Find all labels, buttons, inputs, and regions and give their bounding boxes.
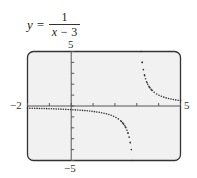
curve-point: [46, 108, 48, 110]
curve-point: [101, 112, 103, 114]
curve-point: [177, 99, 179, 101]
curve-point: [27, 107, 29, 109]
curve-point: [115, 117, 117, 119]
curve-point: [153, 92, 155, 94]
curve-point: [31, 107, 33, 109]
curve-point: [118, 118, 120, 120]
curve-point: [121, 121, 123, 123]
curve-point: [140, 51, 142, 53]
curve-point: [161, 96, 163, 98]
curve-point: [51, 108, 53, 110]
curve-point: [173, 99, 175, 101]
curve-point: [150, 88, 152, 90]
curve-point: [96, 111, 98, 113]
curve-point: [55, 108, 57, 110]
curve-point: [129, 142, 131, 144]
curve-point: [106, 113, 108, 115]
curve-point: [123, 123, 125, 125]
curve-point: [125, 127, 127, 129]
curve-point: [156, 93, 158, 95]
curve-point: [89, 110, 91, 112]
curve-point: [158, 94, 160, 96]
curve-point: [39, 108, 41, 110]
curve-point: [147, 83, 149, 85]
curve-point: [122, 122, 124, 124]
curve-point: [175, 99, 177, 101]
curve-point: [165, 97, 167, 99]
curve-point: [94, 111, 96, 113]
curve-point: [168, 98, 170, 100]
curve-point: [65, 109, 67, 111]
curve-point: [124, 125, 126, 127]
curve-point: [108, 114, 110, 116]
curve-point: [48, 108, 50, 110]
curve-point: [143, 69, 145, 71]
curve-point: [43, 108, 45, 110]
curve-point: [72, 109, 74, 111]
curve-point: [180, 100, 182, 102]
curve-point: [126, 129, 128, 131]
curve-point: [103, 112, 105, 114]
curve-point: [113, 115, 115, 117]
curve-point: [29, 107, 31, 109]
curve-point: [149, 87, 151, 89]
curve-point: [144, 74, 146, 76]
curve-point: [67, 109, 69, 111]
curve-point: [41, 108, 43, 110]
curve-point: [110, 115, 112, 117]
curve-point: [86, 110, 88, 112]
curve-point: [36, 108, 38, 110]
curve-point: [84, 110, 86, 112]
curve-point: [60, 108, 62, 110]
curve-point: [91, 111, 93, 113]
curve-point: [146, 81, 148, 83]
graphing-calculator-screen: [0, 0, 197, 178]
curve-point: [79, 109, 81, 111]
curve-point: [151, 90, 153, 92]
curve-point: [141, 62, 143, 64]
curve-point: [63, 108, 65, 110]
curve-point: [75, 109, 77, 111]
curve-point: [53, 108, 55, 110]
curve-point: [77, 109, 79, 111]
curve-point: [34, 108, 36, 110]
curve-point: [127, 132, 129, 134]
curve-point: [82, 110, 84, 112]
curve-point: [131, 149, 133, 151]
curve-point: [98, 112, 100, 114]
curve-point: [163, 96, 165, 98]
curve-point: [170, 98, 172, 100]
curve-point: [70, 109, 72, 111]
curve-point: [132, 160, 134, 162]
curve-point: [58, 108, 60, 110]
curve-point: [128, 136, 130, 138]
curve-point: [145, 78, 147, 80]
curve-point: [148, 85, 150, 87]
